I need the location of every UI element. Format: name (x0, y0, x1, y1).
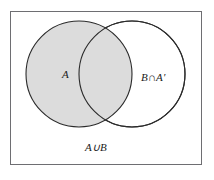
b-intersect-a-complement-label: B∩A′ (141, 71, 166, 83)
a-union-b-label: A∪B (85, 141, 107, 154)
venn-diagram-figure: A B∩A′ A∪B (0, 0, 214, 180)
set-a-label: A (62, 68, 69, 80)
